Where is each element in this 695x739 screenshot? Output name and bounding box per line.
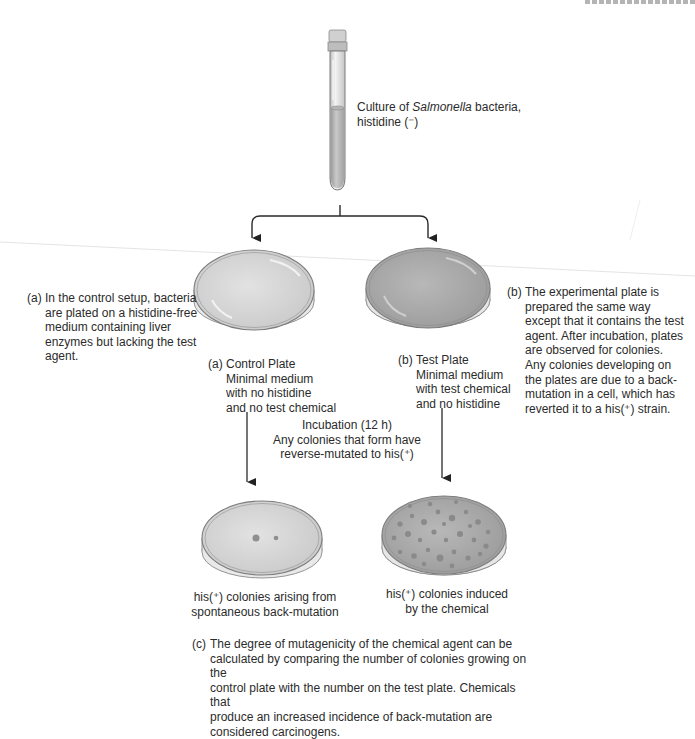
test-result-label: his(⁺) colonies induced by the chemical: [372, 587, 522, 616]
control-result-plate-icon: [202, 501, 322, 578]
incubation-label: Incubation (12 h) Any colonies that form…: [272, 418, 422, 462]
control-plate-label: (a) Control Plate Minimal medium with no…: [208, 357, 358, 415]
test-plate-icon: [366, 248, 490, 328]
control-plate-title: Control Plate: [226, 357, 358, 372]
branch-arrows: [252, 205, 428, 238]
annotation-c: (c) The degree of mutagenicity of the ch…: [192, 637, 532, 739]
test-result-plate-icon: [382, 496, 506, 575]
control-plate-icon: [194, 250, 314, 330]
annotation-a: (a) In the control setup, bacteria are p…: [27, 291, 202, 364]
scan-edge-line: [0, 242, 695, 276]
test-plate-title: Test Plate: [416, 353, 528, 368]
annotation-b: (b) The experimental plate is prepared t…: [507, 285, 695, 416]
colony-icon: [274, 536, 279, 541]
tube-label: Culture of Salmonella bacteria, histidin…: [357, 100, 557, 129]
colony-icon: [253, 535, 260, 542]
test-plate-label: (b) Test Plate Minimal medium with test …: [398, 353, 528, 411]
species-name: Salmonella: [412, 100, 471, 114]
control-result-label: his(⁺) colonies arising from spontaneous…: [190, 590, 340, 619]
test-tube-icon: [328, 30, 347, 190]
